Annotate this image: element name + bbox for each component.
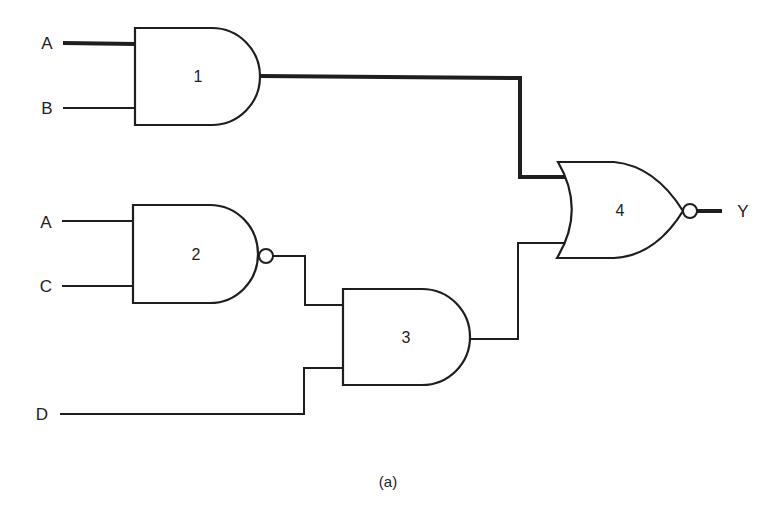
input-label-a-gate1: A bbox=[41, 34, 53, 53]
input-label-a-gate2: A bbox=[40, 213, 52, 232]
input-label-b: B bbox=[41, 99, 52, 118]
gate-4-number: 4 bbox=[616, 202, 625, 219]
gate-2-inversion-bubble bbox=[259, 249, 273, 263]
input-label-c: C bbox=[40, 277, 52, 296]
wire-d-to-gate3 bbox=[60, 368, 344, 414]
wire-gate1-to-gate4 bbox=[260, 76, 566, 177]
figure-caption: (a) bbox=[379, 473, 397, 490]
gate-4-inversion-bubble bbox=[683, 204, 697, 218]
gate-2-number: 2 bbox=[192, 246, 201, 263]
wire-gate3-to-gate4 bbox=[470, 243, 566, 339]
gate-3-number: 3 bbox=[402, 329, 411, 346]
output-label-y: Y bbox=[737, 202, 748, 221]
logic-circuit-diagram: A B A C D 1 2 3 4 Y (a) bbox=[0, 0, 781, 517]
wire-a-to-gate1 bbox=[63, 43, 136, 44]
input-label-d: D bbox=[36, 405, 48, 424]
gate-1-number: 1 bbox=[194, 68, 203, 85]
wire-gate2-to-gate3 bbox=[273, 256, 344, 305]
